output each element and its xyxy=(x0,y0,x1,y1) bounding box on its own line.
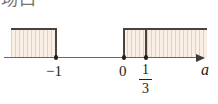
fraction-bar xyxy=(139,79,152,80)
region-top-border xyxy=(11,28,57,30)
right-shaded-region xyxy=(123,28,207,58)
fraction-numerator: 1 xyxy=(142,63,149,78)
number-line-figure: −1 0 1 3 a xyxy=(0,0,218,104)
left-shaded-region xyxy=(11,28,57,58)
region-left-border xyxy=(123,28,125,58)
tick-label-zero: 0 xyxy=(119,64,127,79)
axis-line xyxy=(4,57,200,58)
point-one-third xyxy=(144,55,148,59)
tick-label-one-third: 1 3 xyxy=(139,63,152,96)
tick-label-minus-one: −1 xyxy=(46,64,62,79)
point-minus-one xyxy=(54,55,58,59)
region-right-border xyxy=(55,28,57,58)
hatch-fill xyxy=(11,28,57,58)
divider-line-one-third xyxy=(145,28,147,58)
point-zero xyxy=(122,55,126,59)
region-top-border xyxy=(123,28,207,30)
fraction-denominator: 3 xyxy=(142,81,149,96)
axis-label-a: a xyxy=(201,62,209,77)
hatch-fill xyxy=(123,28,207,58)
